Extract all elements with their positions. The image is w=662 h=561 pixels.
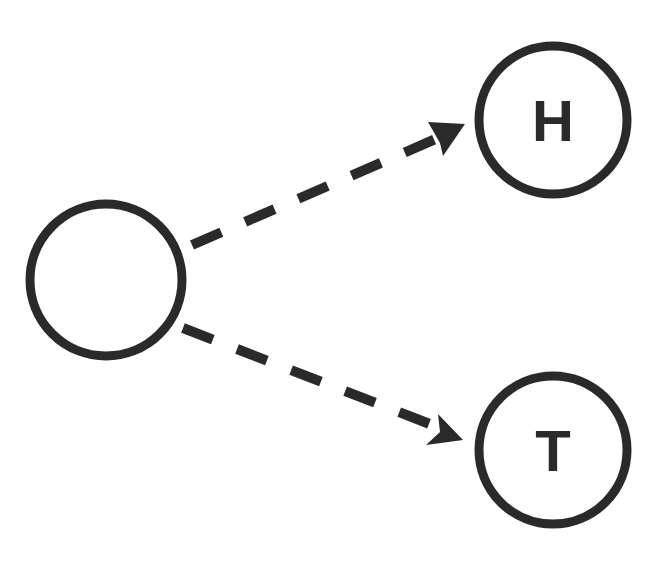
tails-node: T (479, 376, 627, 524)
heads-node: H (479, 46, 627, 194)
arrowhead-icon (426, 414, 463, 445)
coin-flip-tree-diagram: H T (0, 0, 662, 561)
edge-root-to-heads (192, 122, 465, 245)
heads-node-label: H (532, 88, 574, 153)
tails-node-label: T (535, 418, 570, 483)
edge-root-to-tails (183, 328, 463, 445)
root-node (30, 204, 182, 356)
